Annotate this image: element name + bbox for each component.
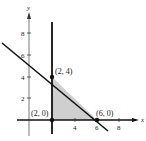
point-2-4	[50, 75, 54, 79]
feasible-region	[52, 77, 97, 120]
point-label-2-4: (2, 4)	[55, 67, 73, 76]
y-tick-label-4: 4	[21, 74, 25, 82]
y-axis-arrow-icon	[27, 12, 31, 19]
chart: (2, 4) (2, 0) (6, 0) 2 4 6 8 4 6 8 x y	[0, 0, 146, 141]
y-tick-label-6: 6	[21, 52, 25, 60]
y-tick-label-8: 8	[21, 30, 25, 38]
point-label-2-0: (2, 0)	[31, 109, 49, 118]
point-2-0	[50, 118, 54, 122]
y-axis-label: y	[26, 4, 31, 12]
x-tick-label-8: 8	[117, 124, 121, 132]
x-tick-label-4: 4	[73, 124, 77, 132]
x-tick-label-6: 6	[95, 124, 99, 132]
y-tick-label-2: 2	[21, 95, 25, 103]
x-axis-label: x	[140, 116, 145, 124]
x-axis-arrow-icon	[132, 118, 139, 122]
point-6-0	[95, 118, 99, 122]
point-label-6-0: (6, 0)	[96, 109, 114, 118]
